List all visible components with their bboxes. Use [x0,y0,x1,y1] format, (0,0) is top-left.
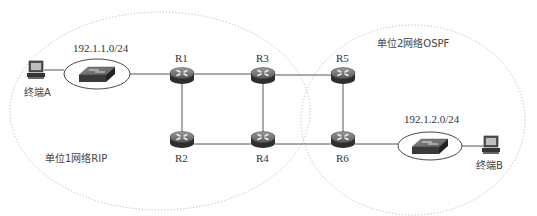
region-rip-boundary [10,12,310,210]
computer-b-icon [482,136,500,154]
router-r3-icon [251,68,275,85]
router-r5-icon [331,68,355,85]
router-r6-icon [331,132,355,149]
router-r5-label: R5 [336,52,349,64]
router-r1-icon [170,68,194,85]
terminal-b-label: 终端B [476,159,503,171]
computer-a-icon [27,61,45,79]
router-r4-label: R4 [256,152,269,164]
router-r1-label: R1 [175,52,188,64]
router-r3-label: R3 [256,52,269,64]
subnet-1-label: 192.1.1.0/24 [73,42,129,54]
router-r4-icon [251,132,275,149]
terminal-a-label: 终端A [24,86,51,98]
network-diagram: 192.1.1.0/24 192.1.2.0/24 R1 R3 R5 R2 R4… [0,0,537,216]
router-r6-label: R6 [336,152,349,164]
subnet-2-label: 192.1.2.0/24 [404,113,460,125]
router-r2-label: R2 [175,152,188,164]
region-ospf-label: 单位2网络OSPF [377,37,450,49]
router-r2-icon [170,132,194,149]
region-rip-label: 单位1网络RIP [45,152,107,164]
